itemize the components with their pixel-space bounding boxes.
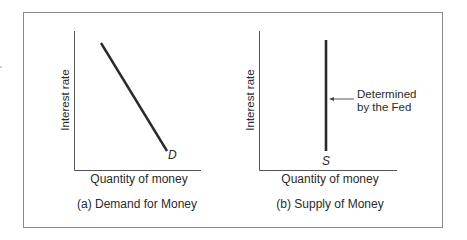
demand-curve bbox=[101, 43, 167, 151]
panel-a-caption: (a) Demand for Money bbox=[47, 197, 227, 211]
demand-curve-label: D bbox=[168, 148, 177, 162]
fed-annotation: Determined by the Fed bbox=[357, 88, 416, 114]
panel-a-axes bbox=[75, 31, 202, 171]
supply-curve-label: S bbox=[322, 154, 330, 168]
fed-annotation-line2: by the Fed bbox=[357, 101, 416, 114]
panel-a-xlabel: Quantity of money bbox=[69, 172, 209, 186]
panel-b-ylabel: Interest rate bbox=[244, 60, 256, 140]
panel-b-xlabel: Quantity of money bbox=[260, 172, 400, 186]
fed-annotation-line1: Determined bbox=[357, 88, 416, 101]
panel-b-caption: (b) Supply of Money bbox=[240, 197, 420, 211]
annotation-arrow bbox=[329, 97, 354, 101]
panel-a-ylabel: Interest rate bbox=[59, 60, 71, 140]
